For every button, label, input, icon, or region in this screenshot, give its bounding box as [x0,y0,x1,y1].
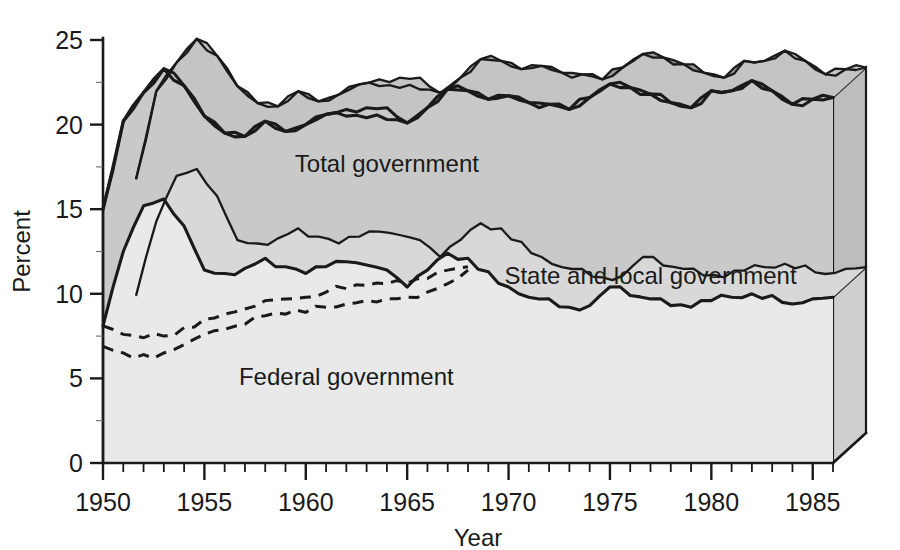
series-label-federal-government: Federal government [239,363,454,390]
x-tick-label-1975: 1975 [582,488,638,516]
x-tick-label-1985: 1985 [785,488,841,516]
x-tick-label-1960: 1960 [278,488,334,516]
area-chart: 0510152025195019551960196519701975198019… [0,0,900,550]
y-tick-label-25: 25 [55,26,83,54]
x-tick-label-1980: 1980 [684,488,740,516]
y-tick-label-10: 10 [55,280,83,308]
y-axis-title: Percent [8,210,35,293]
x-tick-label-1965: 1965 [379,488,435,516]
side-panel-federal [833,267,866,463]
chart-figure: 0510152025195019551960196519701975198019… [0,0,900,550]
x-tick-label-1970: 1970 [481,488,537,516]
y-tick-label-15: 15 [55,195,83,223]
x-tick-label-1955: 1955 [177,488,233,516]
series-label-state-and-local-government: State and local government [504,262,797,289]
y-tick-label-0: 0 [69,449,83,477]
x-tick-label-1950: 1950 [75,488,131,516]
side-panel-state-local [833,68,866,298]
series-label-total-government: Total government [295,150,479,177]
x-axis-title: Year [454,524,503,550]
y-tick-label-5: 5 [69,364,83,392]
y-tick-label-20: 20 [55,111,83,139]
